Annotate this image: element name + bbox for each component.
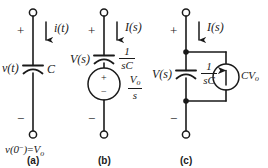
source-label-sub-c: o [255,74,259,83]
current-label-b: I(s) [125,21,142,33]
terminal-bottom-b [100,131,107,138]
current-label-c: I(s) [207,21,224,33]
ic-var-a: v(0 [5,143,19,155]
source-value-label-b: Vo s [128,74,142,101]
impedance-numerator-c: 1 [201,61,217,73]
terminal-top-a [29,9,36,16]
source-value-denominator-b: s [128,90,142,102]
terminal-top-c [182,9,189,16]
voltage-label-c: V(s) [152,68,172,80]
plus-sign-b: + [88,24,95,37]
source-plus-sign-b: + [101,73,107,83]
impedance-label-c: 1 sC [201,61,217,86]
current-label-a: i(t) [54,22,69,34]
terminal-bottom-c [182,131,189,138]
caption-c: (c) [180,156,192,166]
terminal-top-b [100,9,107,16]
ic-value-sub-a: o [40,149,44,158]
caption-a: (a) [27,156,39,166]
impedance-numerator-b: 1 [119,46,135,58]
terminal-bottom-a [29,131,36,138]
impedance-denominator-c: sC [201,75,217,87]
impedance-label-b: 1 sC [119,46,135,71]
minus-sign-c: − [170,112,177,125]
circuit-figure: + i(t) v(t) C − v(0−)=Vo (a) + I(s) V(s)… [0,0,268,168]
minus-sign-a: − [17,112,24,125]
source-label-text-c: CV [241,69,255,81]
source-label-c: CVo [241,70,259,83]
source-value-sub-b: o [136,78,140,87]
caption-b: (b) [98,156,111,166]
element-label-a: C [47,63,55,75]
plus-sign-c: + [170,24,177,37]
source-value-numerator-b: Vo [128,74,142,88]
voltage-label-a: v(t) [2,62,19,74]
impedance-denominator-b: sC [119,60,135,72]
voltage-label-b: V(s) [70,53,90,65]
plus-sign-a: + [17,24,24,37]
minus-sign-b: − [88,112,95,125]
source-minus-sign-b: − [101,87,107,97]
